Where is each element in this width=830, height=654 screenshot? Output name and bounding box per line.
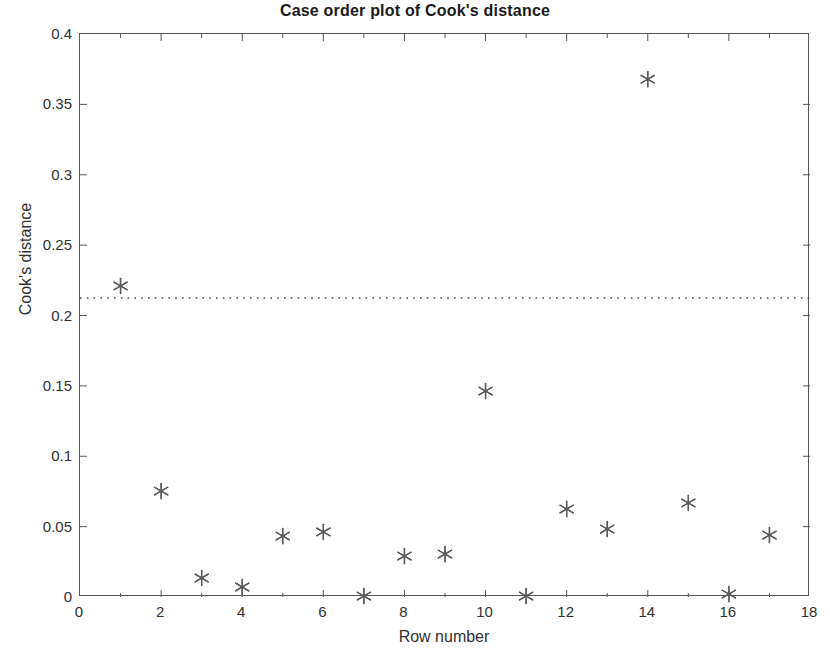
data-point [520, 588, 533, 603]
data-point [317, 524, 330, 539]
data-point [438, 546, 451, 561]
data-point [114, 278, 127, 293]
x-axis-tick-label: 18 [801, 603, 818, 620]
y-axis-tick-label-group: 00.050.10.150.20.250.30.350.4 [0, 33, 72, 596]
data-point [276, 528, 289, 543]
x-axis-tick-label: 2 [156, 603, 164, 620]
data-point [236, 579, 249, 594]
plot-area [79, 33, 809, 596]
data-point [601, 521, 614, 536]
x-axis-tick-label: 0 [75, 603, 83, 620]
x-axis-title: Row number [79, 628, 809, 646]
y-axis-title-wrapper: Cook's distance [17, 169, 35, 349]
axis-ticks [80, 34, 810, 597]
x-axis-tick-label: 10 [476, 603, 493, 620]
data-point [641, 72, 654, 87]
data-point [722, 586, 735, 601]
data-point [560, 501, 573, 516]
page-title: Case order plot of Cook's distance [0, 2, 830, 20]
x-axis-tick-label: 6 [318, 603, 326, 620]
y-axis-tick-label: 0.25 [43, 236, 72, 253]
data-point [357, 588, 370, 603]
y-axis-tick-label: 0.15 [43, 376, 72, 393]
data-point [155, 483, 168, 498]
data-point [195, 570, 208, 585]
y-axis-tick-label: 0.2 [51, 306, 72, 323]
x-axis-tick-label: 16 [720, 603, 737, 620]
data-point [682, 495, 695, 510]
data-point [763, 527, 776, 542]
y-axis-tick-label: 0.35 [43, 95, 72, 112]
y-axis-title: Cook's distance [17, 203, 34, 315]
y-axis-tick-label: 0.1 [51, 447, 72, 464]
data-point-group [114, 72, 776, 604]
x-axis-tick-label: 14 [638, 603, 655, 620]
x-axis-tick-label: 8 [399, 603, 407, 620]
plot-canvas [80, 34, 810, 597]
y-axis-tick-label: 0.05 [43, 517, 72, 534]
data-point [398, 548, 411, 563]
x-axis-tick-label-group: 024681012141618 [79, 603, 809, 625]
x-axis-tick-label: 12 [557, 603, 574, 620]
y-axis-tick-label: 0 [64, 588, 72, 605]
x-axis-tick-label: 4 [237, 603, 245, 620]
y-axis-tick-label: 0.4 [51, 25, 72, 42]
data-point [479, 383, 492, 398]
cook-distance-plot-figure: Case order plot of Cook's distance 00.05… [0, 0, 830, 654]
y-axis-tick-label: 0.3 [51, 165, 72, 182]
